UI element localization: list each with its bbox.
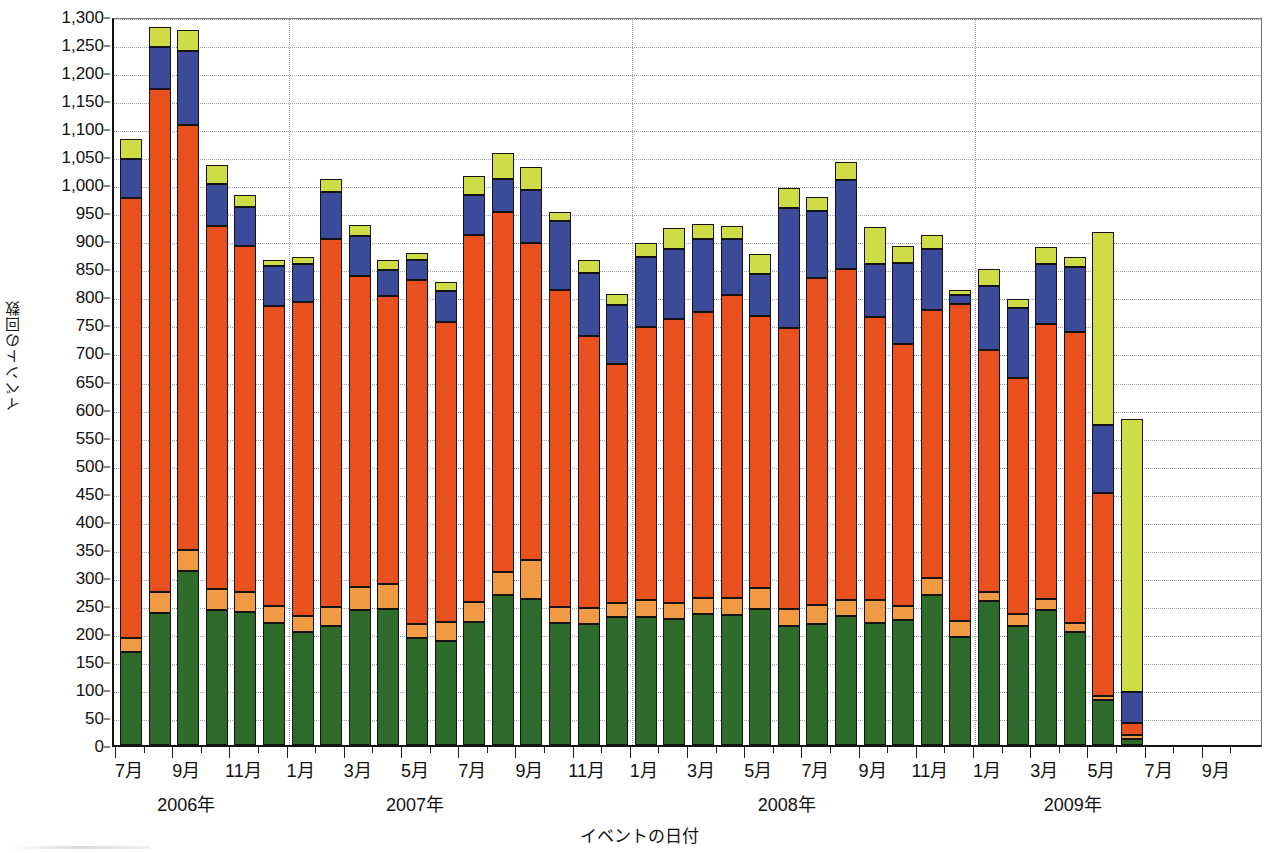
- bar-segment-red: [978, 350, 1000, 592]
- x-axis-tick-label: 11月: [911, 756, 948, 782]
- bar-segment-yellow: [692, 224, 714, 239]
- y-axis-tick-label: 250: [76, 597, 104, 617]
- bar-segment-blue: [463, 195, 485, 234]
- y-axis-tick-label: 500: [76, 457, 104, 477]
- x-axis-tick-mark: [258, 747, 259, 753]
- x-axis-tick-mark: [315, 747, 316, 753]
- x-axis-tick-label: 1月: [630, 756, 658, 782]
- bar-segment-yellow: [778, 188, 800, 208]
- bar-segment-orange: [177, 550, 199, 571]
- bar-segment-orange: [949, 621, 971, 638]
- bar-segment-red: [1092, 493, 1114, 696]
- bar-segment-orange: [349, 587, 371, 611]
- chart-root: イベントの回数 05010015020025030035040045050055…: [0, 0, 1279, 853]
- bar-segment-red: [492, 212, 514, 572]
- bar-segment-blue: [864, 264, 886, 317]
- bar-segment-green: [435, 641, 457, 745]
- bar-segment-red: [606, 364, 628, 603]
- bar-segment-red: [635, 327, 657, 600]
- scan-edge-artifact: [10, 846, 150, 849]
- x-axis-year-labels: 2006年2007年2008年2009年: [0, 790, 1279, 820]
- x-axis-tick-label: 5月: [1087, 756, 1115, 782]
- bar-segment-blue: [721, 239, 743, 295]
- y-axis-tick-label: 1,050: [61, 148, 104, 168]
- bar-segment-yellow: [492, 153, 514, 178]
- bar-segment-blue: [635, 257, 657, 327]
- bar-segment-orange: [406, 624, 428, 638]
- bar-segment-green: [406, 638, 428, 745]
- bar-segment-orange: [1064, 623, 1086, 631]
- bar-segment-yellow: [949, 290, 971, 296]
- bar-segment-yellow: [606, 294, 628, 305]
- y-axis-tick-label: 1,100: [61, 120, 104, 140]
- bar-segment-red: [1064, 332, 1086, 624]
- bar-segment-yellow: [549, 212, 571, 220]
- bar-segment-orange: [149, 592, 171, 613]
- bar-segment-orange: [692, 598, 714, 615]
- bar-segment-orange: [463, 602, 485, 622]
- bar-segment-orange: [1092, 696, 1114, 700]
- y-axis-tick-label: 900: [76, 232, 104, 252]
- y-axis-tick-label: 200: [76, 625, 104, 645]
- bar-segment-orange: [892, 606, 914, 620]
- y-axis-tick-label: 700: [76, 344, 104, 364]
- bar-segment-red: [892, 344, 914, 606]
- x-axis-year-label: 2006年: [157, 790, 215, 816]
- bar-segment-green: [892, 620, 914, 745]
- y-axis-tick-label: 1,000: [61, 176, 104, 196]
- bar-segment-green: [635, 617, 657, 745]
- y-axis-tick-mark: [104, 690, 110, 691]
- y-axis-tick-label: 150: [76, 653, 104, 673]
- bar-segment-red: [1035, 324, 1057, 599]
- x-axis-tick-mark: [601, 747, 602, 753]
- bar-segment-red: [778, 328, 800, 608]
- bar-segment-blue: [177, 51, 199, 125]
- bar-segment-green: [921, 595, 943, 745]
- bar-segment-yellow: [1064, 257, 1086, 267]
- bar-segment-green: [721, 615, 743, 745]
- bar-segment-green: [806, 624, 828, 745]
- bar-segment-yellow: [749, 254, 771, 274]
- bar-segment-blue: [234, 207, 256, 246]
- y-axis-tick-label: 1,300: [61, 8, 104, 28]
- bar-segment-yellow: [349, 225, 371, 236]
- x-axis-tick-mark: [144, 747, 145, 753]
- bar-segment-yellow: [320, 179, 342, 192]
- x-axis-tick-label: 3月: [1030, 756, 1058, 782]
- bar-segment-green: [1092, 700, 1114, 745]
- bar-segment-orange: [234, 592, 256, 612]
- bar-segment-red: [349, 276, 371, 587]
- y-axis-tick-label: 550: [76, 429, 104, 449]
- y-axis-tick-mark: [104, 606, 110, 607]
- bar-segment-red: [377, 296, 399, 583]
- bar-segment-blue: [377, 270, 399, 296]
- bar-segment-green: [177, 571, 199, 745]
- x-axis-tick-mark: [372, 747, 373, 753]
- bar-segment-yellow: [463, 176, 485, 196]
- y-axis-tick-label: 650: [76, 373, 104, 393]
- bar-segment-yellow: [806, 197, 828, 211]
- x-axis-tick-label: 9月: [515, 756, 543, 782]
- bar-segment-blue: [520, 190, 542, 243]
- bar-segment-red: [149, 89, 171, 592]
- bar-segment-blue: [320, 192, 342, 240]
- bar-segment-blue: [1092, 425, 1114, 492]
- y-axis-tick-mark: [104, 214, 110, 215]
- y-axis-tick-mark: [104, 522, 110, 523]
- bar-segment-yellow: [177, 30, 199, 51]
- bar-segment-yellow: [1007, 299, 1029, 307]
- y-axis-tick-mark: [104, 18, 110, 19]
- bar-segment-red: [692, 312, 714, 598]
- y-axis-tick-label: 950: [76, 204, 104, 224]
- bar-segment-green: [234, 612, 256, 745]
- y-axis-title: イベントの回数: [2, 300, 24, 412]
- bar-segment-orange: [749, 588, 771, 609]
- bar-segment-green: [778, 626, 800, 745]
- bar-segment-red: [263, 306, 285, 606]
- y-axis-tick-mark: [104, 578, 110, 579]
- bar-segment-orange: [377, 584, 399, 609]
- bar-segment-blue: [949, 295, 971, 303]
- y-axis-tick-mark: [104, 102, 110, 103]
- bar-segment-orange: [1035, 599, 1057, 610]
- x-axis-year-label: 2007年: [386, 790, 444, 816]
